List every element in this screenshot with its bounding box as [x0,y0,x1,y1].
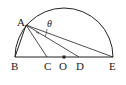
label-theta: θ [47,18,52,29]
label-D: D [76,60,84,72]
segment-AD [26,25,79,57]
label-B: B [11,60,18,72]
geometry-diagram: A θ B C O D E [0,0,126,85]
segment-AB [15,25,26,57]
center-point-O [63,56,66,59]
label-C: C [44,60,51,72]
angle-mark-theta [45,29,47,37]
segment-AC [26,25,47,57]
label-O: O [59,60,67,72]
label-A: A [17,16,25,28]
segment-AE [26,25,113,57]
label-E: E [109,60,116,72]
semicircle-arc [15,8,113,57]
